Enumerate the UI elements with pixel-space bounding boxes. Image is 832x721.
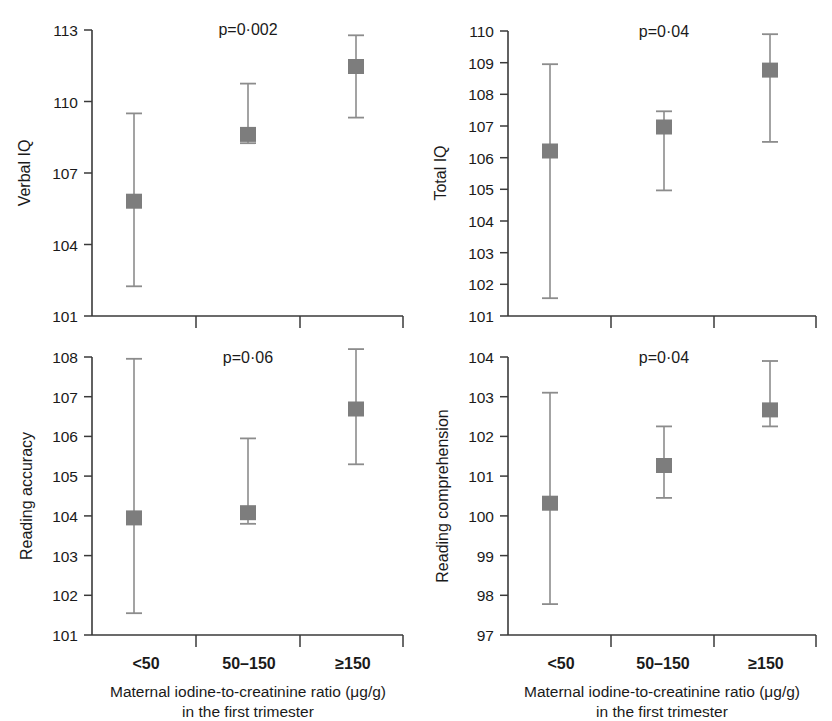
x-ticks-reading-comprehension xyxy=(611,635,816,647)
data-marker xyxy=(542,144,558,159)
y-tick-label: 110 xyxy=(53,94,78,111)
x-ticks-reading-accuracy xyxy=(196,635,403,647)
y-tick-label: 99 xyxy=(477,548,494,565)
y-ticks-total-iq xyxy=(500,31,508,316)
y-tick-label: 101 xyxy=(52,627,78,644)
datapoint-group-lt50 xyxy=(126,359,142,613)
panel-reading-comprehension: 104 103 102 101 100 99 98 97 p=0·04 xyxy=(416,330,832,721)
datapoint-group-50-150 xyxy=(656,426,672,498)
y-tick-label: 102 xyxy=(52,587,78,604)
datapoint-group-lt50 xyxy=(542,64,558,298)
y-tick-label: 101 xyxy=(52,308,78,325)
y-tick-label: 104 xyxy=(468,213,494,230)
data-marker xyxy=(762,402,778,417)
data-marker xyxy=(240,127,256,142)
panel-verbal-iq-svg: 113 110 107 104 101 p=0·002 xyxy=(0,0,416,345)
y-tick-label: 107 xyxy=(468,118,494,135)
data-marker xyxy=(656,458,672,473)
y-tick-label: 98 xyxy=(477,587,494,604)
datapoint-group-lt50 xyxy=(126,113,142,286)
datapoint-group-gte150 xyxy=(348,349,364,464)
y-tick-label: 103 xyxy=(468,389,494,406)
panel-reading-accuracy-svg: 108 107 106 105 104 103 102 101 p=0·06 xyxy=(0,330,416,721)
x-category-label: <50 xyxy=(547,655,574,672)
x-ticks-verbal-iq xyxy=(196,316,403,328)
y-tick-label: 103 xyxy=(468,245,494,262)
datapoint-group-50-150 xyxy=(240,438,256,523)
p-value-annotation: p=0·04 xyxy=(639,349,689,366)
y-axis-label: Reading accuracy xyxy=(18,432,35,560)
y-tick-label: 102 xyxy=(468,276,494,293)
data-marker xyxy=(542,496,558,511)
data-marker xyxy=(126,194,142,209)
x-axis-label-line1: Maternal iodine-to-creatinine ratio (μg/… xyxy=(524,683,800,700)
y-axis-label: Total IQ xyxy=(432,145,449,200)
x-axis-label-line2: in the first trimester xyxy=(596,703,728,720)
figure-container: 113 110 107 104 101 p=0·002 xyxy=(0,0,832,721)
panel-verbal-iq: 113 110 107 104 101 p=0·002 xyxy=(0,0,416,345)
panel-reading-accuracy: 108 107 106 105 104 103 102 101 p=0·06 xyxy=(0,330,416,721)
y-tick-label: 102 xyxy=(468,428,494,445)
y-axis-label: Reading comprehension xyxy=(434,409,451,582)
p-value-annotation: p=0·06 xyxy=(223,349,273,366)
y-tick-label: 107 xyxy=(52,389,78,406)
datapoint-group-gte150 xyxy=(348,35,364,117)
y-ticks-verbal-iq xyxy=(84,30,92,316)
datapoint-group-lt50 xyxy=(542,393,558,604)
y-axis-label: Verbal IQ xyxy=(16,140,33,207)
x-category-label: 50–150 xyxy=(636,655,689,672)
y-tick-label: 106 xyxy=(52,428,78,445)
x-ticks-total-iq xyxy=(611,316,816,328)
y-tick-label: 97 xyxy=(477,627,494,644)
panel-total-iq-svg: 110 109 108 107 106 105 104 103 102 101 … xyxy=(416,0,832,345)
y-tick-label: 105 xyxy=(52,468,78,485)
data-marker xyxy=(348,402,364,417)
x-axis-label-line1: Maternal iodine-to-creatinine ratio (μg/… xyxy=(110,683,386,700)
y-tick-label: 104 xyxy=(468,349,494,366)
x-category-label: <50 xyxy=(132,655,159,672)
data-marker xyxy=(240,505,256,520)
y-ticks-reading-comprehension xyxy=(500,357,508,635)
data-marker xyxy=(126,510,142,525)
datapoint-group-gte150 xyxy=(762,361,778,426)
data-marker xyxy=(762,63,778,78)
y-tick-label: 101 xyxy=(468,468,494,485)
x-category-label: ≥150 xyxy=(335,655,371,672)
y-tick-label: 110 xyxy=(469,23,494,40)
data-marker xyxy=(656,120,672,135)
x-category-label: ≥150 xyxy=(748,655,784,672)
y-tick-label: 100 xyxy=(468,508,494,525)
datapoint-group-50-150 xyxy=(240,84,256,144)
y-tick-label: 105 xyxy=(468,181,494,198)
y-ticks-reading-accuracy xyxy=(84,357,92,635)
y-tick-label: 108 xyxy=(52,349,78,366)
p-value-annotation: p=0·04 xyxy=(639,23,689,40)
y-tick-label: 103 xyxy=(52,548,78,565)
y-tick-label: 107 xyxy=(52,165,78,182)
panel-total-iq: 110 109 108 107 106 105 104 103 102 101 … xyxy=(416,0,832,345)
y-tick-label: 109 xyxy=(468,55,494,72)
x-category-label: 50–150 xyxy=(222,655,275,672)
y-tick-label: 104 xyxy=(52,237,78,254)
datapoint-group-gte150 xyxy=(762,34,778,142)
y-tick-label: 113 xyxy=(53,22,78,39)
y-tick-label: 101 xyxy=(468,308,494,325)
x-axis-label-line2: in the first trimester xyxy=(182,703,314,720)
datapoint-group-50-150 xyxy=(656,111,672,190)
y-tick-label: 108 xyxy=(468,86,494,103)
data-marker xyxy=(348,59,364,74)
p-value-annotation: p=0·002 xyxy=(218,21,277,38)
y-tick-label: 104 xyxy=(52,508,78,525)
y-tick-label: 106 xyxy=(468,150,494,167)
panel-reading-comprehension-svg: 104 103 102 101 100 99 98 97 p=0·04 xyxy=(416,330,832,721)
